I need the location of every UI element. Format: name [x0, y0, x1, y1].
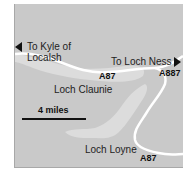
road-label-a87-north: A87 — [99, 71, 116, 81]
destination-east: To Loch Ness — [111, 56, 172, 67]
scale-label: 4 miles — [38, 105, 69, 115]
loch-label-loyne: Loch Loyne — [85, 144, 137, 155]
scale-bar — [22, 118, 86, 120]
arrow-right-icon — [174, 57, 181, 67]
destination-west-line1: To Kyle of — [27, 41, 71, 52]
destination-west-line2: Localsh — [27, 52, 61, 63]
road-a887 — [135, 68, 183, 154]
road-label-a887: A887 — [159, 68, 181, 78]
road-label-a87-south: A87 — [140, 153, 157, 163]
arrow-left-icon — [15, 42, 22, 52]
map: To Kyle of Localsh To Loch Ness A87 A887… — [14, 4, 183, 168]
loch-label-claunie: Loch Claunie — [54, 84, 112, 95]
